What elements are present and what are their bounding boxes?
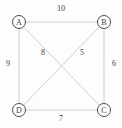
node-a[interactable]: A xyxy=(13,16,26,29)
node-d-label: D xyxy=(16,106,22,115)
node-b[interactable]: B xyxy=(98,16,111,29)
edge-weight-d-c: 7 xyxy=(59,115,63,123)
node-c-label: C xyxy=(101,106,106,115)
graph-canvas: A B C D xyxy=(0,0,122,128)
node-b-label: B xyxy=(101,18,106,27)
node-a-label: A xyxy=(16,18,22,27)
node-c[interactable]: C xyxy=(98,104,111,117)
edge-weight-a-b: 10 xyxy=(57,5,65,13)
edge-weight-a-d: 9 xyxy=(6,60,10,68)
edge-weight-a-c: 8 xyxy=(41,49,45,57)
edge-weight-b-d: 5 xyxy=(80,49,84,57)
edge-group xyxy=(19,22,104,110)
graph-diagram: A B C D 10 9 6 7 8 5 xyxy=(0,0,122,128)
node-d[interactable]: D xyxy=(13,104,26,117)
edge-weight-b-c: 6 xyxy=(112,60,116,68)
